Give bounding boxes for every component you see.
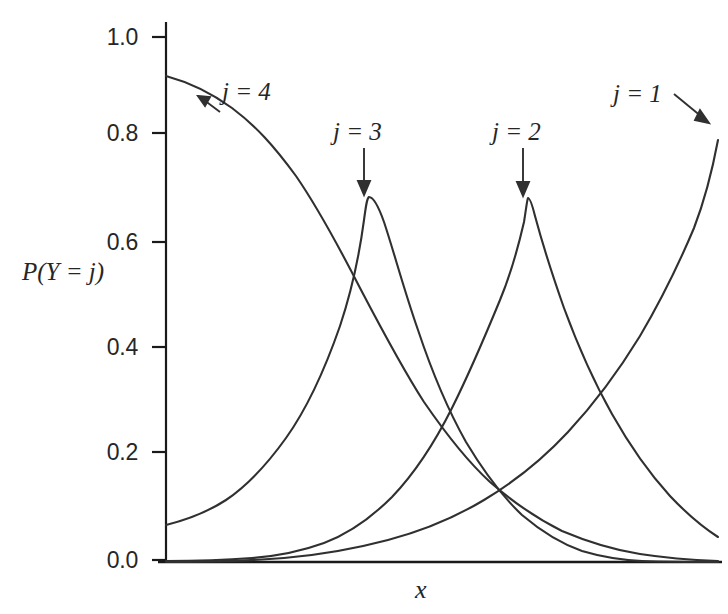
curve-j4 — [166, 76, 718, 561]
curve-j2 — [166, 198, 718, 561]
curve-j3 — [166, 197, 718, 562]
curve-label-j4: j = 4 — [222, 78, 271, 106]
y-tick-label-0-2: 0.2 — [68, 439, 138, 466]
y-axis-title: P(Y = j) — [22, 258, 104, 286]
curve-j1 — [166, 140, 718, 562]
curve-label-j3: j = 3 — [333, 118, 382, 146]
chart-figure: 1.0 0.8 0.6 0.4 0.2 0.0 P(Y = j) x j = 4… — [0, 0, 728, 614]
annotation-arrows — [198, 94, 709, 196]
arrow-head-j4 — [198, 96, 210, 106]
y-tick-label-0-8: 0.8 — [68, 120, 138, 147]
y-tick-label-0-4: 0.4 — [68, 334, 138, 361]
arrow-head-j2 — [517, 182, 529, 196]
y-tick-label-0-0: 0.0 — [68, 547, 138, 574]
y-tick-label-1-0: 1.0 — [68, 24, 138, 51]
y-axis-ticks — [152, 37, 166, 560]
curve-label-j1: j = 1 — [613, 80, 662, 108]
y-tick-label-0-6: 0.6 — [68, 229, 138, 256]
x-axis-title: x — [415, 575, 427, 605]
curve-label-j2: j = 2 — [492, 118, 541, 146]
arrow-head-j3 — [358, 181, 370, 195]
